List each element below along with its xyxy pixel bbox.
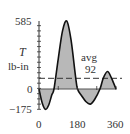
y-tick-label-0: 0 [27, 84, 33, 95]
x-tick-label-360: 360 [107, 119, 124, 130]
y-axis-symbol: T [19, 47, 26, 58]
x-tick-label-180: 180 [69, 119, 86, 130]
y-axis-unit: lb-in [8, 61, 29, 72]
x-tick-label-0: 0 [36, 119, 42, 130]
positive-area-fill [39, 21, 116, 110]
chart-area [37, 21, 122, 110]
avg-label: avg [81, 52, 97, 63]
y-tick-label-neg175: −175 [9, 104, 32, 115]
avg-value-label: 92 [85, 64, 96, 75]
y-tick-label-585: 585 [15, 16, 32, 27]
